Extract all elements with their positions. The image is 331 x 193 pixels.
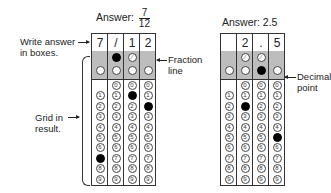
right-digit-bubble-col3-8[interactable]: 8	[257, 164, 266, 173]
left-digit-bubble-col2-7[interactable]: 7	[112, 154, 121, 163]
right-decimal-bubble-col1[interactable]: ·	[225, 66, 234, 75]
right-digit-bubble-col4-5[interactable]: 5	[273, 133, 282, 142]
left-digit-bubble-col2-3[interactable]: 3	[112, 112, 121, 121]
left-digit-bubble-col3-8[interactable]: 8	[128, 164, 137, 173]
left-digit-bubble-col4-8[interactable]: 8	[144, 164, 153, 173]
left-digit-bubble-col1-6[interactable]: 6	[96, 143, 105, 152]
left-digit-bubble-col3-9[interactable]: 9	[128, 175, 137, 184]
right-slash-bubble-col3[interactable]: ⁄	[257, 53, 266, 62]
right-slash-bubble-col2[interactable]: ⁄	[241, 53, 250, 62]
right-digit-bubble-col3-3[interactable]: 3	[257, 112, 266, 121]
left-digit-bubble-col1-3[interactable]: 3	[96, 112, 105, 121]
left-decimal-bubble-col2[interactable]: ·	[112, 66, 121, 75]
left-decimal-bubble-col3[interactable]: ·	[128, 66, 137, 75]
left-digit-bubble-col4-6[interactable]: 6	[144, 143, 153, 152]
right-digit-bubble-col4-8[interactable]: 8	[273, 164, 282, 173]
left-digit-bubble-col1-1[interactable]: 1	[96, 91, 105, 100]
left-digit-bubble-col3-5[interactable]: 5	[128, 133, 137, 142]
left-digit-bubble-col4-9[interactable]: 9	[144, 175, 153, 184]
right-header-cell-2[interactable]: 2	[237, 34, 253, 51]
left-slash-bubble-col3[interactable]: ⁄	[128, 53, 137, 62]
left-digit-bubble-col1-2[interactable]: 2	[96, 102, 105, 111]
right-digit-bubble-col4-7[interactable]: 7	[273, 154, 282, 163]
right-digit-bubble-col1-9[interactable]: 9	[225, 175, 234, 184]
right-digit-bubble-col3-1[interactable]: 1	[257, 91, 266, 100]
right-digit-bubble-col2-5[interactable]: 5	[241, 133, 250, 142]
right-digit-bubble-col4-6[interactable]: 6	[273, 143, 282, 152]
right-digit-bubble-col2-3[interactable]: 3	[241, 112, 250, 121]
right-digit-bubble-col3-7[interactable]: 7	[257, 154, 266, 163]
right-digit-bubble-col2-4[interactable]: 4	[241, 123, 250, 132]
left-digit-bubble-col3-0[interactable]: 0	[128, 81, 137, 90]
right-digit-bubble-col2-7[interactable]: 7	[241, 154, 250, 163]
right-digit-bubble-col2-0[interactable]: 0	[241, 81, 250, 90]
right-decimal-bubble-col4[interactable]: ·	[273, 66, 282, 75]
right-digit-bubble-col1-4[interactable]: 4	[225, 123, 234, 132]
right-digit-bubble-col2-6[interactable]: 6	[241, 143, 250, 152]
left-decimal-bubble-col4[interactable]: ·	[144, 66, 153, 75]
right-decimal-bubble-col2[interactable]: ·	[241, 66, 250, 75]
right-digit-bubble-col1-7[interactable]: 7	[225, 154, 234, 163]
right-digit-bubble-col3-2[interactable]: 2	[257, 102, 266, 111]
right-header-cell-3[interactable]: .	[253, 34, 269, 51]
left-digit-bubble-col2-4[interactable]: 4	[112, 123, 121, 132]
left-digit-bubble-col1-8[interactable]: 8	[96, 164, 105, 173]
left-slash-bubble-col2[interactable]: ⁄	[112, 53, 121, 62]
write-answer-label: Write answer in boxes.	[20, 36, 75, 58]
left-digit-bubble-col1-4[interactable]: 4	[96, 123, 105, 132]
left-digit-bubble-col2-0[interactable]: 0	[112, 81, 121, 90]
left-digit-bubble-col4-2[interactable]: 2	[144, 102, 153, 111]
left-digit-bubble-col2-6[interactable]: 6	[112, 143, 121, 152]
right-digit-bubble-col1-1[interactable]: 1	[225, 91, 234, 100]
left-digit-bubble-col3-4[interactable]: 4	[128, 123, 137, 132]
left-decimal-bubble-col1[interactable]: ·	[96, 66, 105, 75]
right-digit-bubble-col4-9[interactable]: 9	[273, 175, 282, 184]
right-digit-bubble-col4-2[interactable]: 2	[273, 102, 282, 111]
right-digit-bubble-col3-4[interactable]: 4	[257, 123, 266, 132]
left-header-cell-1[interactable]: 7	[92, 34, 108, 51]
left-digit-bubble-col1-9[interactable]: 9	[96, 175, 105, 184]
left-digit-bubble-col3-3[interactable]: 3	[128, 112, 137, 121]
left-digit-bubble-col3-6[interactable]: 6	[128, 143, 137, 152]
left-digit-bubble-col2-2[interactable]: 2	[112, 102, 121, 111]
right-digit-bubble-col2-9[interactable]: 9	[241, 175, 250, 184]
left-digit-bubble-col1-7[interactable]: 7	[96, 154, 105, 163]
right-digit-bubble-col3-6[interactable]: 6	[257, 143, 266, 152]
left-digit-bubble-col3-7[interactable]: 7	[128, 154, 137, 163]
right-header-cell-1[interactable]	[221, 34, 237, 51]
left-digit-bubble-col4-3[interactable]: 3	[144, 112, 153, 121]
right-header-cell-4[interactable]: 5	[269, 34, 285, 51]
left-digit-bubble-col2-9[interactable]: 9	[112, 175, 121, 184]
left-header-cell-2[interactable]: /	[108, 34, 124, 51]
left-digit-bubble-col3-2[interactable]: 2	[128, 102, 137, 111]
right-decimal-bubble-col3[interactable]: ·	[257, 66, 266, 75]
left-digit-bubble-col2-5[interactable]: 5	[112, 133, 121, 142]
right-digit-bubble-col1-3[interactable]: 3	[225, 112, 234, 121]
right-digit-bubble-col2-8[interactable]: 8	[241, 164, 250, 173]
left-digit-bubble-col4-4[interactable]: 4	[144, 123, 153, 132]
left-header-cell-3[interactable]: 1	[124, 34, 140, 51]
right-digit-bubble-col2-2[interactable]: 2	[241, 102, 250, 111]
right-digit-bubble-col4-3[interactable]: 3	[273, 112, 282, 121]
right-digit-bubble-col1-5[interactable]: 5	[225, 133, 234, 142]
left-digit-bubble-col4-5[interactable]: 5	[144, 133, 153, 142]
left-digit-bubble-col3-1[interactable]: 1	[128, 91, 137, 100]
right-digit-bubble-col1-8[interactable]: 8	[225, 164, 234, 173]
left-digit-bubble-col4-7[interactable]: 7	[144, 154, 153, 163]
right-digit-bubble-col2-1[interactable]: 1	[241, 91, 250, 100]
left-digit-bubble-col4-0[interactable]: 0	[144, 81, 153, 90]
right-digit-bubble-col3-0[interactable]: 0	[257, 81, 266, 90]
right-digit-bubble-col4-4[interactable]: 4	[273, 123, 282, 132]
right-digit-bubble-col1-6[interactable]: 6	[225, 143, 234, 152]
left-digit-bubble-col2-8[interactable]: 8	[112, 164, 121, 173]
right-digit-bubble-col3-5[interactable]: 5	[257, 133, 266, 142]
right-digit-bubble-col4-1[interactable]: 1	[273, 91, 282, 100]
left-digit-bubble-col1-5[interactable]: 5	[96, 133, 105, 142]
right-digit-bubble-col3-9[interactable]: 9	[257, 175, 266, 184]
left-header-cell-4[interactable]: 2	[140, 34, 156, 51]
left-digit-bubble-col2-1[interactable]: 1	[112, 91, 121, 100]
right-digit-bubble-col4-0[interactable]: 0	[273, 81, 282, 90]
left-digit-bubble-col4-1[interactable]: 1	[144, 91, 153, 100]
right-digit-bubble-col1-2[interactable]: 2	[225, 102, 234, 111]
fraction-denominator: 12	[139, 19, 150, 29]
